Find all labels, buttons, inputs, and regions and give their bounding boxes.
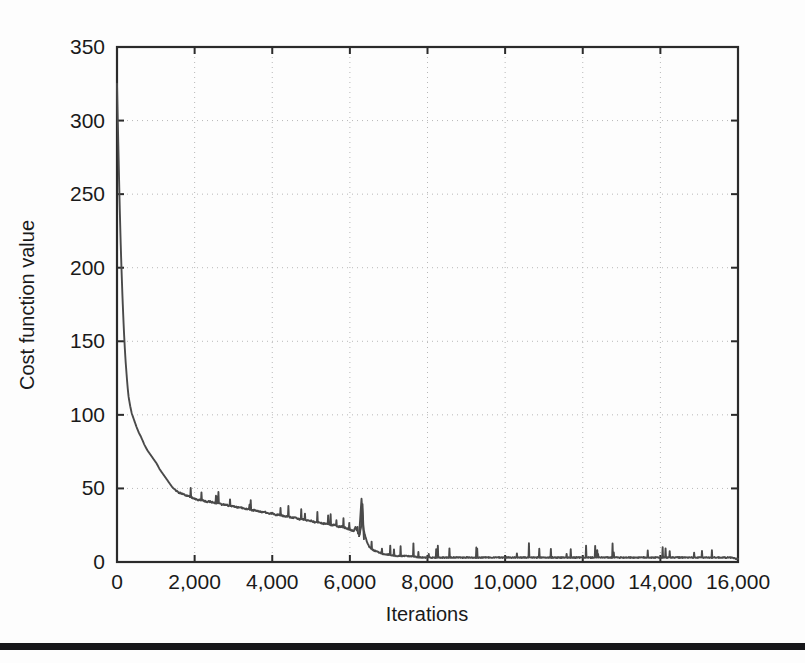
- x-tick-label: 0: [111, 570, 123, 593]
- plot-frame: [117, 47, 738, 562]
- y-tick-label: 50: [82, 476, 105, 499]
- x-tick-label: 4,000: [246, 570, 299, 593]
- y-tick-label: 0: [93, 550, 105, 573]
- x-tick-label: 2,000: [168, 570, 221, 593]
- x-tick-label: 10,000: [473, 570, 537, 593]
- y-axis-title: Cost function value: [16, 220, 38, 390]
- scan-artifact-bar: [0, 643, 805, 650]
- x-tick-label: 14,000: [628, 570, 692, 593]
- tick-marks: [117, 47, 738, 562]
- y-tick-label: 300: [70, 109, 105, 132]
- y-tick-label: 250: [70, 182, 105, 205]
- axes-frame: [117, 47, 738, 562]
- grid-layer: [117, 47, 738, 562]
- figure-canvas: 02,0004,0006,0008,00010,00012,00014,0001…: [0, 0, 805, 663]
- convergence-plot: 02,0004,0006,0008,00010,00012,00014,0001…: [0, 0, 805, 663]
- y-tick-label: 150: [70, 329, 105, 352]
- x-tick-label: 6,000: [324, 570, 377, 593]
- x-axis-title: Iterations: [386, 603, 468, 625]
- tick-labels-layer: 02,0004,0006,0008,00010,00012,00014,0001…: [70, 35, 770, 593]
- x-tick-label: 12,000: [551, 570, 615, 593]
- x-tick-label: 8,000: [401, 570, 454, 593]
- x-tick-label: 16,000: [706, 570, 770, 593]
- y-tick-label: 100: [70, 403, 105, 426]
- y-tick-label: 350: [70, 35, 105, 58]
- y-tick-label: 200: [70, 256, 105, 279]
